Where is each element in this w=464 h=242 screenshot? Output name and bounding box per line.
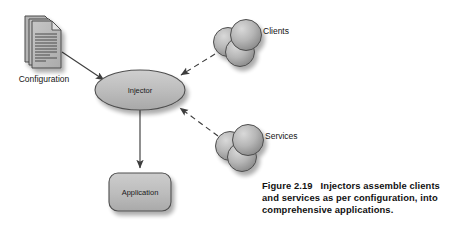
injector-node[interactable]: Injector — [95, 70, 185, 110]
clients-label: Clients — [263, 26, 289, 36]
document-stack-icon — [25, 16, 61, 68]
edge-services-to-injector — [180, 108, 218, 136]
sphere-cluster-icon — [214, 20, 262, 67]
figure-caption: Figure 2.19Injectors assemble clients an… — [262, 180, 462, 217]
configuration-node[interactable]: Configuration — [19, 16, 70, 84]
injector-label: Injector — [128, 86, 153, 95]
services-label: Services — [265, 131, 298, 141]
edge-clients-to-injector — [181, 54, 215, 75]
figure-number: Figure 2.19 — [262, 180, 313, 191]
configuration-label: Configuration — [19, 74, 70, 84]
sphere-cluster-icon — [216, 125, 264, 172]
caption-line-1-text: Injectors assemble clients — [321, 180, 440, 191]
services-node[interactable]: Services — [216, 125, 298, 172]
clients-node[interactable]: Clients — [214, 20, 289, 67]
caption-line-3: comprehensive applications. — [262, 204, 462, 216]
figure-container: Configuration Injector Clients Services — [0, 0, 464, 242]
caption-line-2: and services as per configuration, into — [262, 192, 462, 204]
application-label: Application — [122, 188, 159, 197]
application-node[interactable]: Application — [109, 173, 171, 211]
caption-line-1: Figure 2.19Injectors assemble clients — [262, 180, 462, 192]
